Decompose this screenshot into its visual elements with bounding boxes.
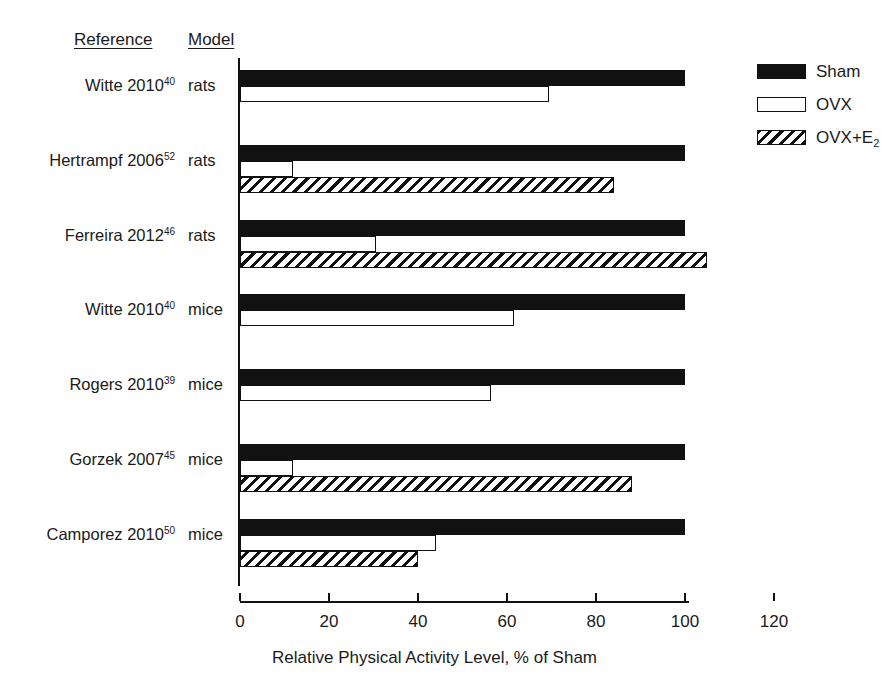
reference-citation-superscript: 45 [164,450,175,461]
bar-ovx [240,310,514,326]
chart-legend: ShamOVXOVX+E2 [757,55,889,154]
legend-label-subscript: 2 [873,137,879,149]
x-axis-tick-label: 120 [760,612,788,632]
chart-figure: Reference Model Witte 201040ratsHertramp… [0,0,889,682]
x-axis-tick [417,593,419,601]
legend-label-ovx: OVX [816,95,852,115]
bar-ovx [240,460,293,476]
bar-sham [240,444,685,460]
model-label: mice [188,375,234,394]
reference-label: Rogers 201039 [0,375,175,394]
x-axis-tick-label: 100 [671,612,699,632]
x-axis-tick [684,593,686,601]
x-axis-tick-label: 0 [235,612,244,632]
bar-sham [240,294,685,310]
model-label: rats [188,76,234,95]
reference-citation-superscript: 46 [164,225,175,236]
reference-label: Witte 201040 [0,300,175,319]
bar-ovx [240,385,491,401]
x-axis-tick [328,593,330,601]
bar-ovx [240,86,549,102]
reference-label: Hertrampf 200652 [0,151,175,170]
reference-citation-superscript: 40 [164,76,175,87]
model-label: mice [188,300,234,319]
bar-ovx [240,535,436,551]
model-label: mice [188,450,234,469]
x-axis-tick [239,593,241,601]
legend-item-ovxe2[interactable]: OVX+E2 [757,121,889,154]
column-header-model: Model [188,30,234,50]
reference-citation-superscript: 39 [164,375,175,386]
x-axis-title: Relative Physical Activity Level, % of S… [0,648,889,668]
legend-swatch-ovx [757,97,806,112]
x-axis-tick [506,593,508,601]
x-axis-tick [595,593,597,601]
reference-label: Witte 201040 [0,76,175,95]
bar-ovxe2 [240,252,707,268]
reference-citation-superscript: 40 [164,300,175,311]
plot-area [240,58,689,586]
legend-swatch-sham [757,64,806,79]
reference-citation-superscript: 52 [164,150,175,161]
legend-item-sham[interactable]: Sham [757,55,889,88]
x-axis-tick-label: 80 [587,612,606,632]
x-axis-title-text: Relative Physical Activity Level, % of S… [272,648,597,668]
legend-label-sham: Sham [816,62,860,82]
x-axis: 020406080100120 [240,601,689,603]
bar-sham [240,220,685,236]
legend-item-ovx[interactable]: OVX [757,88,889,121]
bar-ovx [240,161,293,177]
bar-ovxe2 [240,551,418,567]
model-label: mice [188,525,234,544]
reference-label: Gorzek 200745 [0,450,175,469]
x-axis-tick-label: 60 [498,612,517,632]
bar-sham [240,145,685,161]
bar-sham [240,519,685,535]
column-header-reference: Reference [74,30,152,50]
bar-ovxe2 [240,476,632,492]
reference-label: Ferreira 201246 [0,226,175,245]
x-axis-tick [773,593,775,601]
bar-sham [240,70,685,86]
bar-sham [240,369,685,385]
bar-ovx [240,236,376,252]
model-label: rats [188,151,234,170]
x-axis-tick-label: 40 [409,612,428,632]
x-axis-tick-label: 20 [320,612,339,632]
bar-ovxe2 [240,177,614,193]
reference-citation-superscript: 50 [164,524,175,535]
legend-swatch-ovxe2 [757,130,806,145]
reference-label: Camporez 201050 [0,525,175,544]
model-label: rats [188,226,234,245]
legend-label-ovxe2: OVX+E2 [816,128,879,148]
